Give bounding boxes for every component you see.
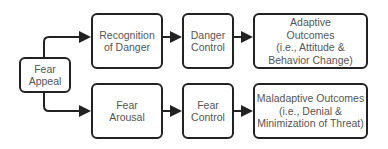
node-adaptive-outcomes: Adaptive Outcomes (i.e., Attitude & Beha… <box>253 13 368 69</box>
node-maladaptive-outcomes: Maladaptive Outcomes (i.e., Denial & Min… <box>253 83 368 139</box>
node-recognition-of-danger: Recognition of Danger <box>91 13 163 69</box>
node-fear-control: Fear Control <box>182 83 234 139</box>
node-label: Adaptive Outcomes (i.e., Attitude & Beha… <box>268 16 353 66</box>
node-label: Fear Control <box>191 99 225 124</box>
node-label: Danger Control <box>191 29 225 54</box>
fear-appeal-diagram: Fear Appeal Recognition of Danger Fear A… <box>0 0 388 149</box>
node-label: Fear Arousal <box>109 99 145 124</box>
node-danger-control: Danger Control <box>182 13 234 69</box>
arrow-appeal-to-arousal <box>44 92 89 111</box>
node-label: Recognition of Danger <box>99 29 154 54</box>
node-fear-arousal: Fear Arousal <box>91 83 163 139</box>
node-label: Fear Appeal <box>29 63 62 88</box>
arrow-appeal-to-recognition <box>44 37 89 57</box>
node-fear-appeal: Fear Appeal <box>19 57 71 93</box>
node-label: Maladaptive Outcomes (i.e., Denial & Min… <box>257 92 364 130</box>
